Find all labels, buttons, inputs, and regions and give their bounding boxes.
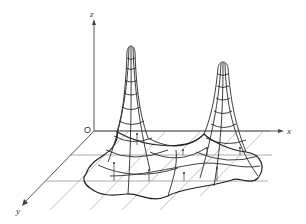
z-label: z	[89, 9, 94, 19]
right-peak	[196, 62, 258, 186]
saddle-mesh	[110, 134, 260, 196]
origin-label: O	[84, 125, 91, 135]
left-peak	[98, 46, 178, 194]
y-axis	[24, 131, 94, 203]
axes: z x y O	[15, 9, 291, 216]
x-arrow-icon	[278, 129, 284, 133]
y-label: y	[15, 206, 20, 216]
x-label: x	[286, 126, 291, 136]
z-arrow-icon	[92, 19, 96, 25]
surface-diagram: z x y O	[0, 0, 306, 224]
